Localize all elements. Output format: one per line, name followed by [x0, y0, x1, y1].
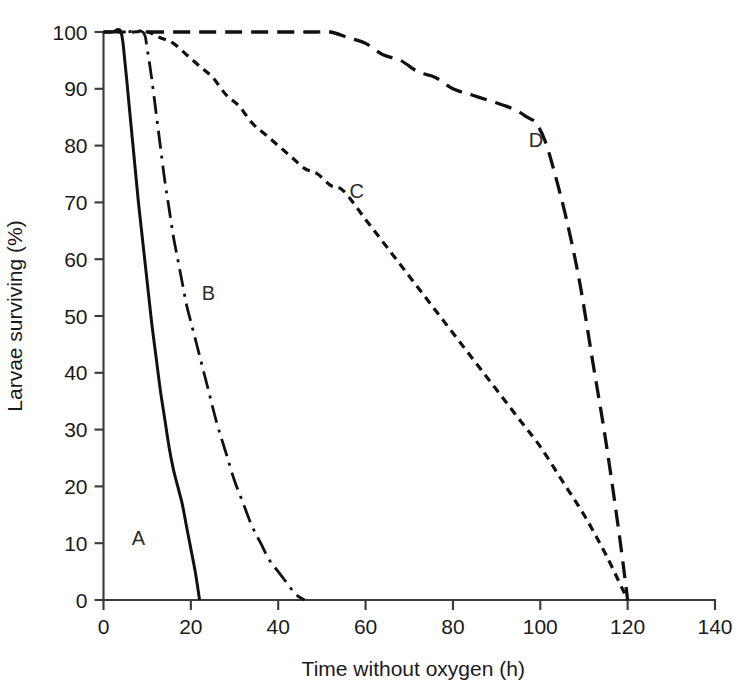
y-tick-label-30: 30	[64, 418, 87, 441]
curve-B	[104, 31, 305, 600]
y-tick-label-90: 90	[64, 77, 87, 100]
series-label-B: B	[202, 282, 215, 304]
series-label-D: D	[529, 129, 543, 151]
y-tick-label-70: 70	[64, 191, 87, 214]
series-labels: ABCD	[132, 129, 543, 549]
curve-C	[104, 32, 628, 600]
x-tick-label-40: 40	[267, 615, 290, 638]
y-axis-title: Larvae surviving (%)	[3, 220, 26, 411]
tick-marks	[95, 32, 716, 610]
curve-D	[147, 32, 627, 600]
curve-A	[104, 29, 200, 600]
y-tick-label-10: 10	[64, 532, 87, 555]
y-tick-label-50: 50	[64, 305, 87, 328]
series-label-C: C	[350, 180, 364, 202]
axes	[104, 32, 716, 600]
survival-curve-chart: 0102030405060708090100020406080100120140…	[0, 0, 755, 694]
tick-labels: 0102030405060708090100020406080100120140	[52, 21, 732, 639]
x-tick-label-20: 20	[179, 615, 202, 638]
y-tick-label-0: 0	[76, 589, 88, 612]
x-tick-label-80: 80	[441, 615, 464, 638]
x-tick-label-60: 60	[354, 615, 377, 638]
x-axis-title: Time without oxygen (h)	[302, 657, 525, 680]
chart-container: 0102030405060708090100020406080100120140…	[0, 0, 755, 694]
x-tick-label-120: 120	[610, 615, 645, 638]
x-tick-label-0: 0	[98, 615, 110, 638]
data-curves	[104, 29, 628, 600]
y-tick-label-100: 100	[52, 21, 87, 44]
y-tick-label-20: 20	[64, 475, 87, 498]
y-tick-label-80: 80	[64, 134, 87, 157]
x-tick-label-100: 100	[523, 615, 558, 638]
y-tick-label-40: 40	[64, 361, 87, 384]
series-label-A: A	[132, 527, 146, 549]
x-tick-label-140: 140	[697, 615, 732, 638]
y-tick-label-60: 60	[64, 248, 87, 271]
